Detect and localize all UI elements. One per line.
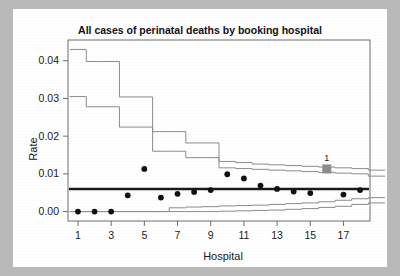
x-tick-label: 17 xyxy=(338,229,350,241)
y-axis-title: Rate xyxy=(27,137,39,160)
data-point xyxy=(125,192,131,198)
x-tick-label: 1 xyxy=(75,229,81,241)
data-point xyxy=(307,190,313,196)
x-tick-label: 7 xyxy=(175,229,181,241)
data-point xyxy=(274,186,280,192)
data-point xyxy=(291,189,297,195)
figure-card: All cases of perinatal deaths by booking… xyxy=(13,9,387,267)
data-point xyxy=(75,209,81,215)
data-point xyxy=(141,166,147,172)
y-tick-label: 0.01 xyxy=(39,167,60,179)
data-point xyxy=(191,189,197,195)
data-point xyxy=(241,175,247,181)
y-tick-label: 0.04 xyxy=(39,54,60,66)
data-point xyxy=(224,171,230,177)
x-axis-title: Hospital xyxy=(203,250,243,262)
data-point xyxy=(158,195,164,201)
y-tick-label: 0.00 xyxy=(39,205,60,217)
data-point xyxy=(175,191,181,197)
x-tick-label: 11 xyxy=(238,229,249,241)
x-tick-label: 5 xyxy=(141,229,147,241)
x-tick-label: 9 xyxy=(208,229,214,241)
data-point xyxy=(92,209,98,215)
highlighted-point-label: 1 xyxy=(324,153,329,163)
x-tick-label: 15 xyxy=(304,229,316,241)
panel-background xyxy=(13,9,387,267)
x-tick-label: 13 xyxy=(271,229,283,241)
data-point xyxy=(258,183,264,189)
x-tick-label: 3 xyxy=(108,229,114,241)
data-point xyxy=(357,187,363,193)
y-tick-label: 0.03 xyxy=(39,92,60,104)
data-point xyxy=(108,209,114,215)
y-tick-label: 0.02 xyxy=(39,130,60,142)
chart-canvas: All cases of perinatal deaths by booking… xyxy=(13,9,387,267)
data-point xyxy=(341,192,347,198)
highlighted-square-marker xyxy=(323,165,331,173)
data-point xyxy=(208,187,214,193)
chart-title: All cases of perinatal deaths by booking… xyxy=(78,24,322,36)
funnel-plot-chart: All cases of perinatal deaths by booking… xyxy=(13,9,387,267)
